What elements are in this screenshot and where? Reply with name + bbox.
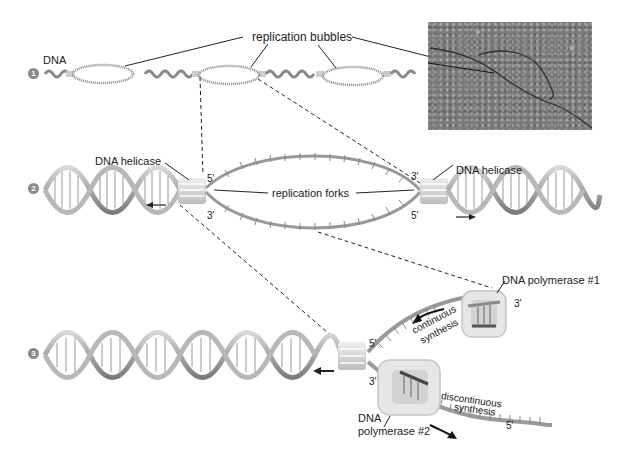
helicase-right-label: DNA helicase bbox=[456, 164, 522, 176]
prime-label-2-right-bottom: 5′ bbox=[411, 210, 418, 221]
polymerase-1-label: DNA polymerase #1 bbox=[502, 274, 600, 286]
polymerase-2-label-line1: DNA bbox=[358, 412, 381, 424]
replication-forks-label: replication forks bbox=[272, 187, 349, 199]
step-badge-2: 2 bbox=[28, 183, 39, 194]
helicase-left-label: DNA helicase bbox=[95, 155, 161, 167]
prime-label-3-fork-bottom: 3′ bbox=[369, 376, 376, 387]
prime-label-3-upper-end: 3′ bbox=[514, 298, 521, 309]
dna-replication-diagram: 1 2 3 DNA replication bubbles DNA helica… bbox=[0, 0, 624, 471]
prime-label-3-fork-top: 5′ bbox=[369, 338, 376, 349]
prime-label-2-left-top: 5′ bbox=[207, 173, 214, 184]
micrograph-overlay bbox=[0, 0, 624, 471]
prime-label-2-left-bottom: 3′ bbox=[207, 210, 214, 221]
prime-label-3-lower-end: 5′ bbox=[506, 420, 513, 431]
replication-bubbles-label: replication bubbles bbox=[252, 31, 352, 43]
dna-label: DNA bbox=[43, 54, 66, 66]
prime-label-2-right-top: 3′ bbox=[411, 171, 418, 182]
step-badge-1: 1 bbox=[28, 68, 39, 79]
polymerase-2-label-line2: polymerase #2 bbox=[358, 425, 430, 437]
step-badge-3: 3 bbox=[28, 348, 39, 359]
